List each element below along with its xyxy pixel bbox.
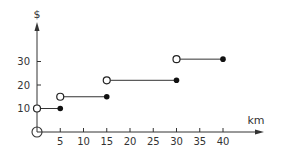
x-tick-label: 30 (170, 136, 183, 147)
closed-circle-icon (174, 78, 180, 84)
closed-circle-icon (57, 106, 63, 112)
open-circle-icon (57, 93, 64, 100)
x-tick-label: 10 (77, 136, 90, 147)
y-axis-title: $ (34, 8, 41, 21)
step-chart: $ km 510152025303540 102030 (0, 0, 284, 158)
y-axis: $ (34, 8, 41, 132)
open-circle-icon (103, 77, 110, 84)
x-tick-label: 5 (57, 136, 63, 147)
x-ticks: 510152025303540 (57, 128, 229, 147)
step-segments (34, 56, 226, 112)
y-tick-label: 30 (17, 56, 30, 67)
x-tick-label: 20 (124, 136, 137, 147)
x-axis-arrow-icon (255, 130, 264, 135)
closed-circle-icon (104, 94, 110, 100)
y-tick-label: 10 (17, 103, 30, 114)
x-axis: km (37, 114, 265, 135)
x-tick-label: 15 (100, 136, 113, 147)
closed-circle-icon (220, 56, 226, 62)
x-tick-label: 40 (217, 136, 230, 147)
y-tick-label: 20 (17, 80, 30, 91)
x-axis-title: km (247, 114, 264, 127)
x-tick-label: 35 (193, 136, 206, 147)
open-circle-icon (34, 105, 41, 112)
y-axis-arrow-icon (35, 22, 40, 31)
open-circle-icon (173, 56, 180, 63)
x-tick-label: 25 (147, 136, 160, 147)
